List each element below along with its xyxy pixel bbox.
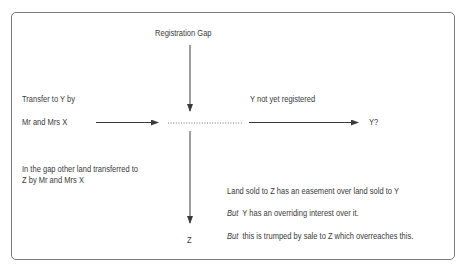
not-registered-label: Y not yet registered	[250, 95, 315, 105]
note-prefix: But	[227, 232, 238, 241]
registration-gap-label: Registration Gap	[155, 29, 212, 39]
note-overriding-interest: But Y has an overriding interest over it…	[227, 209, 359, 219]
y-target-label: Y?	[369, 118, 378, 128]
gap-text-line2: Z by Mr and Mrs X	[22, 176, 84, 186]
diagram-border	[11, 12, 455, 260]
z-target-label: Z	[187, 236, 192, 246]
note-text: this is trumped by sale to Z which overr…	[243, 232, 414, 241]
note-easement: Land sold to Z has an easement over land…	[227, 187, 399, 197]
transfer-label-line2: Mr and Mrs X	[22, 118, 67, 128]
note-text: Y has an overriding interest over it.	[242, 209, 358, 218]
transfer-label-line1: Transfer to Y by	[22, 95, 75, 105]
gap-text-line1: In the gap other land transferred to	[22, 165, 138, 175]
note-prefix: But	[227, 209, 238, 218]
note-overreaching: But this is trumped by sale to Z which o…	[227, 232, 413, 242]
note-text: Land sold to Z has an easement over land…	[227, 187, 399, 196]
